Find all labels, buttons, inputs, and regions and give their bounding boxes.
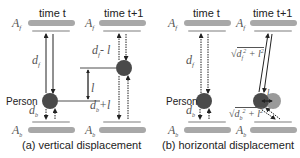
front-antenna-bar: [28, 20, 75, 26]
panel-a: [28, 20, 146, 133]
back-distance-moved-label: db+l: [90, 99, 110, 113]
back-antenna-reflection: [32, 121, 70, 123]
back-antenna-label: Ab: [168, 124, 178, 138]
back-antenna-label: Ab: [12, 124, 22, 138]
front-antenna-reflection: [103, 30, 141, 32]
front-antenna-reflection: [188, 30, 226, 32]
caption-b: (b) horizontal displacement: [162, 140, 294, 151]
time-label: time t: [193, 8, 220, 19]
front-antenna-reflection: [254, 30, 292, 32]
person-moved-icon: [116, 60, 132, 76]
front-antenna-reflection: [32, 30, 70, 32]
front-antenna-label: Af: [168, 17, 177, 32]
displacement-label: l: [91, 82, 94, 94]
front-distance-label: df: [32, 54, 40, 69]
back-antenna-bar: [28, 127, 75, 133]
back-antenna-label: Ab: [85, 124, 95, 138]
time-label: time t+1: [104, 8, 143, 19]
front-distance-moved-label: df- l: [92, 44, 110, 59]
front-antenna-label: Af: [12, 17, 21, 32]
front-antenna-label: Af: [236, 17, 245, 32]
front-antenna-label: Af: [85, 17, 94, 32]
front-distance-label: df: [186, 54, 194, 69]
person-label: Person: [6, 97, 38, 107]
back-antenna-bar: [184, 127, 231, 133]
person-icon: [196, 93, 212, 109]
time-label: time t+1: [253, 8, 292, 19]
back-antenna-bar: [250, 127, 297, 133]
front-antenna-bar: [184, 20, 231, 26]
back-antenna-reflection: [103, 121, 141, 123]
displacement-label: l: [267, 88, 270, 97]
front-distance-sqrt-label: √df2 + l2: [231, 48, 264, 61]
time-label: time t: [39, 8, 66, 19]
caption-a: (a) vertical displacement: [22, 140, 141, 151]
back-antenna-reflection: [188, 121, 226, 123]
back-distance-sqrt-label: √db2 + l2: [229, 108, 263, 121]
back-antenna-label: Ab: [236, 124, 246, 138]
person-icon: [42, 93, 58, 109]
person-label: Person: [166, 97, 198, 107]
front-antenna-bar: [99, 20, 146, 26]
back-antenna-bar: [99, 127, 146, 133]
front-antenna-bar: [250, 20, 297, 26]
displacement-diagram: [0, 0, 300, 158]
